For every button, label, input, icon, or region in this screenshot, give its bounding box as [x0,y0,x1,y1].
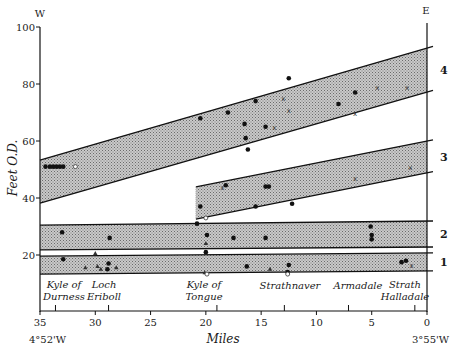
point-cross: x [272,124,276,132]
point-dot [60,230,65,235]
point-dot [369,233,374,238]
y-axis: 20406080100 Feet O.D. W [6,8,46,312]
point-dot [290,201,295,206]
point-cross: x [409,262,413,270]
point-dot [244,264,249,269]
band-label-1: 1 [440,256,448,269]
location-label: StrathHalladale [380,279,430,302]
shoreline-bands [40,46,433,274]
svg-text:Strathnaver: Strathnaver [260,280,322,291]
band-label-3: 3 [440,151,448,164]
point-dot [286,263,291,268]
svg-text:Armadale: Armadale [333,280,383,291]
point-cross: x [220,184,224,192]
point-dot [253,204,258,209]
y-tick-label: 60 [22,136,35,147]
y-tick-label: 80 [22,79,35,90]
band-label-2: 2 [440,228,448,241]
point-dot [263,124,268,129]
band-labels: 1234 [440,64,448,269]
band-label-4: 4 [440,64,448,77]
point-cross: x [375,84,379,92]
location-label: Armadale [333,280,383,291]
y-tick-label: 20 [22,250,35,261]
point-cross: x [281,95,285,103]
x-tick-label: 0 [424,317,430,328]
svg-text:Strath: Strath [389,279,421,290]
location-label: Strathnaver [260,280,322,291]
point-cross: x [353,175,357,183]
x-axis-label: Miles [205,332,239,346]
point-dot [286,76,291,81]
location-label: Kyle ofTongue [185,279,223,302]
point-dot [368,224,373,229]
point-dot [205,233,210,238]
x-tick-label: 5 [369,317,375,328]
point-cross: x [405,84,409,92]
point-dot [231,236,236,241]
y-tick-label: 40 [22,193,35,204]
x-axis: 35302520151050 Miles 4°52'W 3°55'W [29,305,450,346]
point-cross: x [408,164,412,172]
x-tick-label: 30 [89,317,102,328]
x-tick-label: 25 [144,317,157,328]
x-tick-label: 35 [34,317,47,328]
point-dot [353,90,358,95]
point-dot [106,261,111,266]
point-dot [242,122,247,127]
location-labels: Kyle ofDurnessLochEribollKyle ofTongueSt… [42,279,429,302]
x-tick-label: 20 [199,317,212,328]
point-dot [253,99,258,104]
point-cross: x [287,107,291,115]
point-dot [369,237,374,242]
point-dot [105,267,110,272]
point-open-circle [204,216,208,220]
point-dot [195,221,200,226]
point-open-circle [286,272,290,276]
svg-text:Halladale: Halladale [380,291,430,302]
point-dot [336,102,341,107]
x-tick-label: 15 [255,317,268,328]
east-label: E [422,5,429,16]
svg-text:Kyle of: Kyle of [46,279,84,290]
point-dot [246,147,251,152]
point-open-circle [73,165,77,169]
west-label: W [35,8,46,19]
left-longitude: 4°52'W [29,334,67,345]
svg-text:Kyle of: Kyle of [186,279,224,290]
point-dot [267,184,272,189]
point-triangle [93,251,97,255]
svg-text:Durness: Durness [42,291,85,302]
point-dot [263,236,268,241]
point-dot [61,164,66,169]
x-tick-label: 10 [310,317,323,328]
y-tick-label: 100 [16,22,35,33]
location-label: Kyle ofDurness [42,279,85,302]
point-dot [43,164,48,169]
right-longitude: 3°55'W [412,334,450,345]
location-label: LochEriboll [86,279,121,302]
point-dot [198,116,203,121]
point-dot [107,236,112,241]
point-dot [198,204,203,209]
svg-text:Loch: Loch [91,279,117,290]
svg-text:Eriboll: Eriboll [86,291,121,302]
y-axis-label: Feet O.D. [6,140,20,197]
point-dot [61,257,66,262]
point-dot [243,136,248,141]
point-dot [404,258,409,263]
point-dot [226,110,231,115]
point-cross: x [353,110,357,118]
point-open-circle [205,272,209,276]
sea-level-chart: 1234 20406080100 Feet O.D. W E 353025201… [0,0,454,351]
point-dot [204,250,209,255]
point-dot [399,260,404,265]
svg-text:Tongue: Tongue [185,291,222,302]
